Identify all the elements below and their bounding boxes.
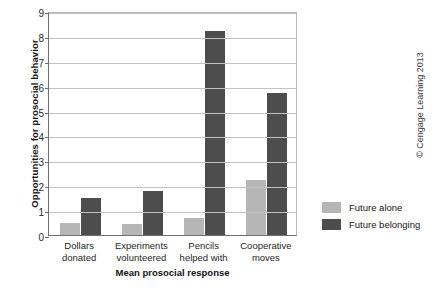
bar	[184, 218, 204, 235]
y-tick-label: 0	[38, 232, 44, 243]
y-tick-label: 2	[38, 182, 44, 193]
bar	[143, 191, 163, 235]
legend-swatch	[322, 202, 341, 213]
y-tick-label: 3	[38, 157, 44, 168]
gridline	[49, 137, 296, 138]
x-category-label-line: Experiments	[110, 240, 172, 252]
bar-chart-figure: Opportunities for prosocial behavior 012…	[0, 0, 435, 296]
x-category-label-line: donated	[48, 252, 110, 264]
gridline	[49, 113, 296, 114]
x-category-label: Cooperativemoves	[235, 240, 297, 263]
y-tick-label: 6	[38, 82, 44, 93]
legend-item: Future belonging	[322, 217, 420, 232]
legend-swatch	[322, 219, 341, 230]
y-tick-label: 9	[38, 8, 44, 19]
gridline	[49, 38, 296, 39]
x-category-label-line: helped with	[173, 252, 235, 264]
x-category-label-line: Dollars	[48, 240, 110, 252]
plot-area: 0123456789	[48, 12, 297, 236]
y-tick-mark	[45, 137, 49, 138]
y-tick-label: 4	[38, 132, 44, 143]
legend-label: Future belonging	[349, 219, 420, 230]
y-tick-label: 8	[38, 32, 44, 43]
bar	[246, 180, 266, 235]
y-tick-mark	[45, 187, 49, 188]
legend-label: Future alone	[349, 202, 402, 213]
gridline	[49, 88, 296, 89]
gridline	[49, 212, 296, 213]
bar	[122, 224, 142, 235]
gridline	[49, 13, 296, 14]
bar	[267, 93, 287, 235]
x-category-label-line: moves	[235, 252, 297, 264]
x-category-label: Pencilshelped with	[173, 240, 235, 263]
y-tick-label: 7	[38, 57, 44, 68]
bar	[60, 223, 80, 235]
y-axis-title: Opportunities for prosocial behavior	[29, 24, 40, 224]
y-tick-mark	[45, 13, 49, 14]
x-category-label-line: Cooperative	[235, 240, 297, 252]
y-tick-label: 5	[38, 107, 44, 118]
y-tick-mark	[45, 88, 49, 89]
gridline	[49, 162, 296, 163]
x-category-label-line: Pencils	[173, 240, 235, 252]
y-tick-label: 1	[38, 207, 44, 218]
x-category-label: Experimentsvolunteered	[110, 240, 172, 263]
legend-item: Future alone	[322, 200, 420, 215]
copyright-credit: © Cengage Learning 2013	[415, 30, 425, 180]
x-category-label: Dollarsdonated	[48, 240, 110, 263]
bar	[205, 31, 225, 235]
chart-legend: Future aloneFuture belonging	[322, 200, 420, 234]
x-axis-title: Mean prosocial response	[48, 267, 297, 278]
gridline	[49, 187, 296, 188]
bar	[81, 198, 101, 235]
gridline	[49, 63, 296, 64]
y-tick-mark	[45, 237, 49, 238]
y-tick-mark	[45, 162, 49, 163]
bars-layer	[49, 13, 296, 235]
y-tick-mark	[45, 63, 49, 64]
y-tick-mark	[45, 113, 49, 114]
x-category-label-line: volunteered	[110, 252, 172, 264]
y-tick-mark	[45, 38, 49, 39]
y-tick-mark	[45, 212, 49, 213]
